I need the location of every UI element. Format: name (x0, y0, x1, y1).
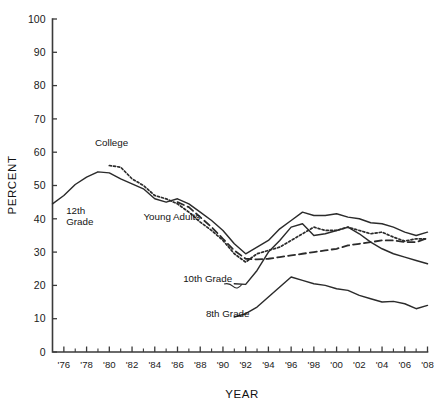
y-tick-label: 100 (28, 13, 46, 25)
y-tick-label: 60 (34, 146, 46, 158)
chart-figure: 0102030405060708090100 '76'78'80'82'84'8… (0, 0, 441, 407)
series-annotation: Young Adults (143, 211, 200, 222)
x-axis-ticks (64, 347, 428, 353)
x-tick-label: '84 (149, 359, 162, 370)
series-line-8th-grade (234, 277, 427, 317)
series-annotation: 8th Grade (206, 308, 250, 319)
axis-lines (53, 19, 428, 352)
series-annotation: 10th Grade (183, 273, 233, 284)
series-annotation: Grade (66, 216, 94, 227)
x-tick-label: '88 (194, 359, 207, 370)
x-tick-label: '04 (376, 359, 389, 370)
x-axis-tick-labels: '76'78'80'82'84'86'88'90'92'94'96'98'00'… (58, 359, 434, 370)
x-tick-label: '76 (58, 359, 71, 370)
x-tick-label: '00 (330, 359, 343, 370)
line-chart-plot: 0102030405060708090100 '76'78'80'82'84'8… (0, 0, 441, 407)
y-axis-title: PERCENT (6, 155, 18, 214)
x-tick-label: '82 (126, 359, 139, 370)
y-tick-label: 20 (34, 279, 46, 291)
y-tick-label: 10 (34, 312, 46, 324)
series-line-young-adults (178, 202, 428, 259)
data-series-group (53, 166, 428, 318)
series-annotations: College12thGradeYoung Adults10th Grade8t… (66, 137, 250, 319)
y-tick-label: 80 (34, 79, 46, 91)
x-tick-label: '96 (285, 359, 298, 370)
series-annotation: College (95, 137, 129, 148)
y-tick-label: 30 (34, 246, 46, 258)
series-annotation: 12th (66, 205, 85, 216)
x-tick-label: '94 (262, 359, 275, 370)
x-tick-label: '06 (399, 359, 412, 370)
x-tick-label: '86 (171, 359, 184, 370)
series-line-10th-grade (234, 224, 427, 285)
y-tick-label: 70 (34, 113, 46, 125)
y-axis-tick-labels: 0102030405060708090100 (28, 13, 46, 358)
x-tick-label: '92 (239, 359, 252, 370)
y-tick-label: 50 (34, 179, 46, 191)
x-tick-label: '02 (353, 359, 366, 370)
x-tick-label: '98 (308, 359, 321, 370)
x-tick-label: '78 (80, 359, 93, 370)
y-tick-label: 90 (34, 46, 46, 58)
x-tick-label: '90 (217, 359, 230, 370)
y-tick-label: 40 (34, 213, 46, 225)
x-tick-label: '80 (103, 359, 116, 370)
footer-caption (0, 398, 441, 407)
y-tick-label: 0 (40, 346, 46, 358)
x-tick-label: '08 (421, 359, 434, 370)
